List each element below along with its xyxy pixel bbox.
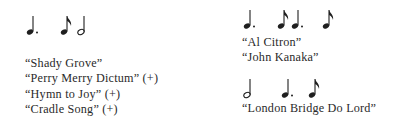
right-song-list-2: “London Bridge Do Lord”: [242, 101, 376, 116]
song-title: “Cradle Song”: [25, 102, 99, 116]
song-title: “London Bridge Do Lord”: [242, 101, 376, 115]
eighth-note-icon: [308, 77, 324, 103]
song-title: “John Kanaka”: [242, 50, 319, 64]
song-title-london-bridge-do-lord: “London Bridge Do Lord”: [242, 101, 376, 116]
eighth-note-icon: [322, 8, 338, 34]
plus-mark: (+): [102, 102, 118, 116]
song-title-cradle-song: “Cradle Song” (+): [25, 102, 158, 117]
right-song-list-1: “Al Citron” “John Kanaka”: [242, 35, 319, 66]
half-note-icon: [243, 77, 259, 103]
song-title-al-citron: “Al Citron”: [242, 35, 319, 50]
dotted-quarter-note-icon: [291, 8, 307, 34]
song-title: “Shady Grove”: [25, 56, 102, 70]
dotted-quarter-note-icon: [281, 77, 297, 103]
right-rhythm-notation-1: [0, 8, 409, 30]
right-rhythm-notation-2: [0, 77, 409, 99]
dotted-quarter-note-icon: [243, 8, 259, 34]
song-title-shady-grove: “Shady Grove”: [25, 56, 158, 71]
song-title: “Al Citron”: [242, 35, 301, 49]
song-title-john-kanaka: “John Kanaka”: [242, 50, 319, 65]
